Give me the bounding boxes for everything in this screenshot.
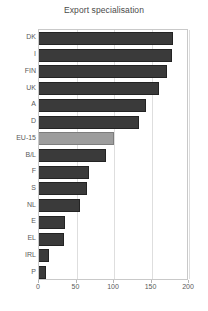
bar-row <box>39 99 189 112</box>
chart-title: Export specialisation <box>0 5 208 15</box>
y-tick-label-dk: DK <box>0 33 36 41</box>
bar-row <box>39 182 189 195</box>
y-tick-label-d: D <box>0 117 36 125</box>
bar-d <box>39 116 139 129</box>
bar-row <box>39 266 189 279</box>
bar-dk <box>39 32 173 45</box>
y-axis-tick-labels: DKIFINUKADEU-15B/LFSNLEELIRLP <box>0 29 36 280</box>
bar-row <box>39 32 189 45</box>
bar-s <box>39 182 87 195</box>
x-tick-label-100: 100 <box>107 283 119 290</box>
bar-row <box>39 65 189 78</box>
y-tick-label-p: P <box>0 268 36 276</box>
bar-row <box>39 216 189 229</box>
y-tick-label-uk: UK <box>0 84 36 92</box>
x-tick-label-50: 50 <box>72 283 80 290</box>
y-tick-label-i: I <box>0 50 36 58</box>
bar-row <box>39 149 189 162</box>
bar-i <box>39 49 172 62</box>
bar-series <box>39 30 187 279</box>
y-tick-label-eu-15: EU-15 <box>0 134 36 142</box>
bar-eu-15 <box>39 132 114 145</box>
x-tick-mark <box>113 280 114 283</box>
x-tick-label-150: 150 <box>145 283 157 290</box>
y-tick-label-e: E <box>0 217 36 225</box>
bar-uk <box>39 82 159 95</box>
x-tick-label-0: 0 <box>36 283 40 290</box>
bar-row <box>39 49 189 62</box>
bar-f <box>39 166 89 179</box>
bar-el <box>39 233 64 246</box>
y-tick-label-fin: FIN <box>0 67 36 75</box>
gridline <box>189 30 190 279</box>
plot-area <box>38 29 188 280</box>
bar-irl <box>39 249 49 262</box>
x-tick-mark <box>151 280 152 283</box>
bar-row <box>39 116 189 129</box>
bar-row <box>39 249 189 262</box>
bar-b-l <box>39 149 106 162</box>
bar-row <box>39 199 189 212</box>
chart-figure: Export specialisation DKIFINUKADEU-15B/L… <box>0 0 208 311</box>
x-axis-tick-labels: 050100150200 <box>0 283 208 297</box>
bar-row <box>39 233 189 246</box>
y-tick-label-b-l: B/L <box>0 151 36 159</box>
x-tick-mark <box>76 280 77 283</box>
y-tick-label-el: EL <box>0 234 36 242</box>
bar-e <box>39 216 65 229</box>
y-tick-label-f: F <box>0 167 36 175</box>
bar-a <box>39 99 146 112</box>
bar-nl <box>39 199 80 212</box>
x-tick-mark <box>38 280 39 283</box>
bar-p <box>39 266 46 279</box>
bar-row <box>39 82 189 95</box>
y-tick-label-s: S <box>0 184 36 192</box>
bar-fin <box>39 65 167 78</box>
y-tick-label-a: A <box>0 100 36 108</box>
y-tick-label-nl: NL <box>0 201 36 209</box>
x-tick-mark <box>188 280 189 283</box>
y-tick-label-irl: IRL <box>0 251 36 259</box>
bar-row <box>39 132 189 145</box>
x-tick-label-200: 200 <box>182 283 194 290</box>
bar-row <box>39 166 189 179</box>
